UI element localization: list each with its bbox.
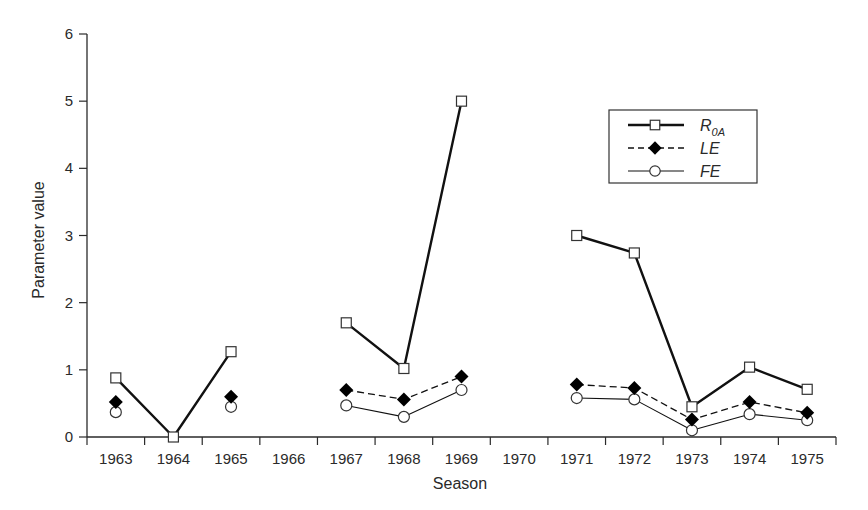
diamond-marker bbox=[224, 390, 238, 404]
series-fe bbox=[110, 384, 812, 435]
x-tick-label: 1975 bbox=[791, 450, 824, 467]
circle-marker bbox=[571, 393, 582, 404]
diamond-marker bbox=[339, 383, 353, 397]
square-marker bbox=[168, 432, 178, 442]
square-marker bbox=[226, 347, 236, 357]
x-tick-label: 1968 bbox=[387, 450, 420, 467]
square-marker bbox=[399, 363, 409, 373]
circle-marker bbox=[341, 400, 352, 411]
y-tick-label: 6 bbox=[65, 25, 73, 42]
diamond-marker bbox=[685, 413, 699, 427]
series-line bbox=[116, 352, 231, 437]
x-tick-label: 1970 bbox=[502, 450, 535, 467]
y-tick-label: 3 bbox=[65, 227, 73, 244]
circle-marker bbox=[398, 411, 409, 422]
legend-box bbox=[609, 110, 757, 183]
diamond-marker bbox=[109, 395, 123, 409]
x-tick-label: 1971 bbox=[560, 450, 593, 467]
y-tick-label: 1 bbox=[65, 361, 73, 378]
square-marker bbox=[629, 248, 639, 258]
circle-marker bbox=[629, 394, 640, 405]
axes: 0123456196319641965196619671968196919701… bbox=[65, 25, 836, 467]
x-tick-label: 1965 bbox=[214, 450, 247, 467]
x-tick-label: 1969 bbox=[445, 450, 478, 467]
series-line bbox=[577, 236, 807, 407]
square-marker bbox=[341, 318, 351, 328]
legend: R0ALEFE bbox=[609, 110, 757, 183]
x-tick-label: 1973 bbox=[675, 450, 708, 467]
square-marker bbox=[650, 120, 660, 130]
diamond-marker bbox=[455, 370, 469, 384]
circle-marker bbox=[744, 409, 755, 420]
square-marker bbox=[802, 384, 812, 394]
x-tick-label: 1974 bbox=[733, 450, 766, 467]
circle-marker bbox=[456, 384, 467, 395]
circle-marker bbox=[650, 166, 660, 176]
x-tick-label: 1967 bbox=[330, 450, 363, 467]
legend-label-le: LE bbox=[700, 140, 720, 157]
x-tick-label: 1966 bbox=[272, 450, 305, 467]
square-marker bbox=[572, 231, 582, 241]
y-tick-label: 0 bbox=[65, 428, 73, 445]
diamond-marker bbox=[397, 392, 411, 406]
square-marker bbox=[457, 96, 467, 106]
y-tick-label: 2 bbox=[65, 294, 73, 311]
square-marker bbox=[687, 402, 697, 412]
chart-canvas: 0123456196319641965196619671968196919701… bbox=[0, 0, 868, 510]
y-axis-title: Parameter value bbox=[30, 181, 47, 298]
x-axis-title: Season bbox=[433, 475, 487, 492]
y-tick-label: 4 bbox=[65, 159, 73, 176]
series-line bbox=[346, 101, 461, 368]
diamond-marker bbox=[627, 381, 641, 395]
x-tick-label: 1963 bbox=[99, 450, 132, 467]
square-marker bbox=[745, 362, 755, 372]
x-tick-label: 1964 bbox=[157, 450, 190, 467]
x-tick-label: 1972 bbox=[618, 450, 651, 467]
diamond-marker bbox=[743, 395, 757, 409]
diamond-marker bbox=[570, 378, 584, 392]
y-tick-label: 5 bbox=[65, 92, 73, 109]
square-marker bbox=[111, 373, 121, 383]
legend-label-fe: FE bbox=[700, 163, 721, 180]
